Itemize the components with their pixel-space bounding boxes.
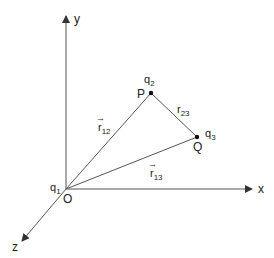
point-p-dot: [149, 91, 153, 95]
origin-label: O: [63, 192, 72, 206]
r12-label: r12: [98, 121, 111, 136]
y-axis-label: y: [74, 12, 80, 26]
r23-line: [151, 93, 197, 137]
r13-line: [66, 137, 197, 189]
x-axis-label: x: [258, 182, 264, 196]
z-axis-label: z: [12, 240, 18, 254]
coulomb-diagram: y x z q1 O q2 P q3 Q → r12 r23 → r13: [0, 0, 274, 258]
z-axis: [22, 189, 66, 241]
charge-q2-label: q2: [144, 73, 155, 88]
r23-label: r23: [177, 103, 190, 118]
point-q-label: Q: [193, 140, 202, 154]
r12-line: [66, 93, 151, 189]
point-p-label: P: [137, 87, 145, 101]
charge-q3-label: q3: [205, 127, 216, 142]
charge-q1-label: q1: [50, 181, 61, 196]
point-q-dot: [195, 135, 199, 139]
r13-label: r13: [150, 167, 163, 182]
